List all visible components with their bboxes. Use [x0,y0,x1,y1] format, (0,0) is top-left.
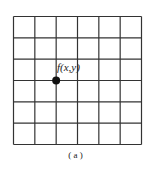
point-label: f(x,y) [57,61,80,73]
pixel-point-marker [52,77,60,85]
figure-caption: ( a ) [0,150,151,160]
pixel-grid [0,0,151,170]
